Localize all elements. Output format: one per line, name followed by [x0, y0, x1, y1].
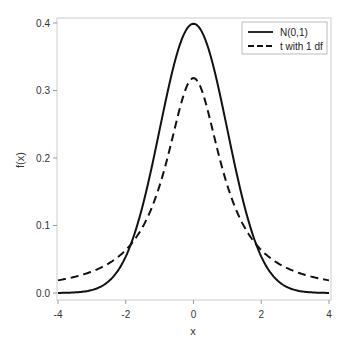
y-tick-label: 0.3	[36, 85, 50, 96]
x-tick-label: -4	[54, 309, 63, 320]
y-axis-title: f(x)	[14, 152, 26, 168]
y-tick-label: 0.1	[36, 220, 50, 231]
legend: N(0,1) t with 1 df	[242, 22, 327, 54]
y-tick-label: 0.2	[36, 153, 50, 164]
x-axis-title: x	[190, 325, 196, 337]
y-axis: 0.00.10.20.30.4	[36, 18, 57, 299]
x-axis: -4-2024	[54, 300, 333, 320]
plot-frame	[57, 18, 331, 300]
x-tick-label: 2	[258, 309, 264, 320]
y-tick-label: 0.0	[36, 288, 50, 299]
density-chart: 0.00.10.20.30.4 -4-2024 x f(x) N(0,1) t …	[0, 0, 354, 364]
x-tick-label: -2	[121, 309, 130, 320]
legend-label-normal: N(0,1)	[280, 27, 308, 38]
legend-label-t1: t with 1 df	[280, 41, 323, 52]
x-tick-label: 4	[326, 309, 332, 320]
x-tick-label: 0	[191, 309, 197, 320]
y-tick-label: 0.4	[36, 18, 50, 29]
